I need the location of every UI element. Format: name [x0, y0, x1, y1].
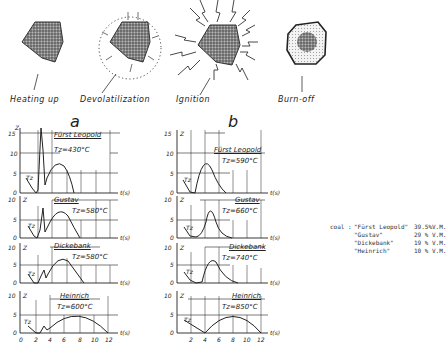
svg-text:10: 10 [164, 292, 172, 299]
svg-text:5: 5 [13, 261, 17, 268]
svg-text:t(s): t(s) [270, 234, 280, 241]
svg-text:10: 10 [10, 150, 18, 157]
legend-coal-name: "Dickebank" [354, 239, 414, 247]
plot-b2-temp: Tz=660°C [222, 207, 258, 215]
legend-row: coal : "Fürst Leopold" 39.5% V.M. [330, 223, 448, 231]
legend-coal-name: "Fürst Leopold" [354, 223, 414, 231]
legend-coal-unit: V.M. [432, 239, 448, 247]
burn-off-particle-icon [287, 22, 326, 92]
svg-text:12: 12 [257, 336, 265, 343]
plot-b4-temp: Tz=850°C [222, 303, 258, 311]
svg-text:Tz: Tz [28, 222, 36, 229]
plot-a2-temp: Tz=580°C [72, 207, 108, 215]
plot-a2-title: Gustav [54, 196, 79, 204]
plot-a1-title: Fürst Leopold [54, 131, 101, 139]
svg-text:0: 0 [170, 234, 174, 241]
legend-coal-value: 19 % [414, 239, 432, 247]
plot-b2-title: Gustav [235, 196, 260, 204]
svg-text:Z: Z [14, 124, 20, 131]
svg-text:5: 5 [170, 170, 174, 177]
stage-label-burn-off: Burn-off [278, 95, 314, 104]
svg-text:10: 10 [164, 196, 172, 203]
legend-row: "Dickebank" 19 % V.M. [330, 239, 448, 247]
svg-text:t(s): t(s) [120, 234, 130, 241]
svg-text:2: 2 [34, 336, 38, 343]
svg-text:Tz: Tz [184, 316, 192, 323]
svg-text:10: 10 [8, 292, 16, 299]
svg-text:8: 8 [78, 336, 82, 343]
stage-label-heating-up: Heating up [10, 95, 59, 104]
plot-a4-title: Heinrich [60, 292, 89, 300]
legend-coal-name: "Heinrich" [354, 247, 414, 255]
svg-text:5: 5 [13, 170, 17, 177]
legend-coal-unit: V.M. [432, 247, 448, 255]
svg-text:5: 5 [170, 261, 174, 268]
svg-text:Tz: Tz [184, 176, 192, 183]
svg-text:t(s): t(s) [270, 279, 280, 286]
plot-a1-temp: Tz=430°C [54, 146, 90, 154]
svg-text:2: 2 [189, 336, 193, 343]
svg-text:Z: Z [22, 196, 28, 203]
plot-a4-temp: Tz=600°C [57, 303, 93, 311]
svg-text:0: 0 [19, 336, 23, 343]
legend-coal-value: 10 % [414, 247, 432, 255]
svg-text:6: 6 [217, 336, 221, 343]
plot-b4-title: Heinrich [232, 292, 261, 300]
svg-text:t(s): t(s) [120, 189, 130, 196]
legend-coal-unit: V.M. [432, 223, 448, 231]
plot-b3-title: Dickebank [229, 243, 266, 251]
stage-label-ignition: Ignition [176, 95, 210, 104]
svg-text:8: 8 [231, 336, 235, 343]
svg-text:0: 0 [13, 329, 17, 336]
heating-up-particle-icon [22, 22, 63, 90]
plot-a3-temp: Tz=580°C [72, 253, 108, 261]
svg-text:10: 10 [164, 244, 172, 251]
svg-text:Tz: Tz [186, 224, 194, 231]
svg-text:10: 10 [8, 244, 16, 251]
plot-b1-title: Fürst Leopold [214, 146, 261, 154]
svg-text:10: 10 [91, 336, 99, 343]
devolatilization-particle-icon [99, 12, 161, 93]
legend-prefix: coal : [330, 223, 354, 231]
legend-coal-value: 29 % [414, 231, 432, 239]
plot-b3-temp: Tz=740°C [222, 254, 258, 262]
svg-text:t(s): t(s) [270, 189, 280, 196]
svg-text:5: 5 [13, 216, 17, 223]
svg-text:Tz: Tz [28, 270, 36, 277]
svg-text:12: 12 [105, 336, 113, 343]
legend-row: "Heinrich" 10 % V.M. [330, 247, 448, 255]
svg-text:t(s): t(s) [270, 329, 280, 336]
svg-text:Z: Z [179, 130, 185, 137]
svg-text:4: 4 [48, 336, 52, 343]
svg-text:0: 0 [13, 234, 17, 241]
svg-text:0: 0 [170, 279, 174, 286]
svg-text:0: 0 [13, 279, 17, 286]
ignition-particle-icon [170, 0, 258, 95]
plot-b1-temp: Tz=590°C [222, 157, 258, 165]
legend-row: "Gustav" 29 % V.M. [330, 231, 448, 239]
svg-text:Z: Z [22, 292, 28, 299]
svg-text:0: 0 [170, 329, 174, 336]
svg-text:4: 4 [203, 336, 207, 343]
svg-text:5: 5 [13, 311, 17, 318]
svg-text:Tz: Tz [24, 318, 32, 325]
svg-text:10: 10 [8, 196, 16, 203]
svg-text:15: 15 [8, 130, 16, 137]
legend-coal-value: 39.5% [414, 223, 432, 231]
panel-a-letter: a [70, 112, 80, 131]
coal-legend: coal : "Fürst Leopold" 39.5% V.M. "Gusta… [330, 223, 448, 255]
svg-text:Z: Z [179, 292, 185, 299]
legend-coal-unit: V.M. [432, 231, 448, 239]
svg-text:t(s): t(s) [120, 329, 130, 336]
svg-text:10: 10 [166, 150, 174, 157]
svg-text:5: 5 [170, 216, 174, 223]
svg-text:Z: Z [22, 244, 28, 251]
svg-text:5: 5 [170, 311, 174, 318]
svg-text:t(s): t(s) [120, 279, 130, 286]
svg-text:Tz: Tz [26, 174, 34, 181]
svg-text:Tz: Tz [186, 268, 194, 275]
svg-text:Z: Z [179, 196, 185, 203]
svg-text:Z: Z [179, 244, 185, 251]
svg-text:10: 10 [243, 336, 251, 343]
svg-text:0: 0 [170, 189, 174, 196]
